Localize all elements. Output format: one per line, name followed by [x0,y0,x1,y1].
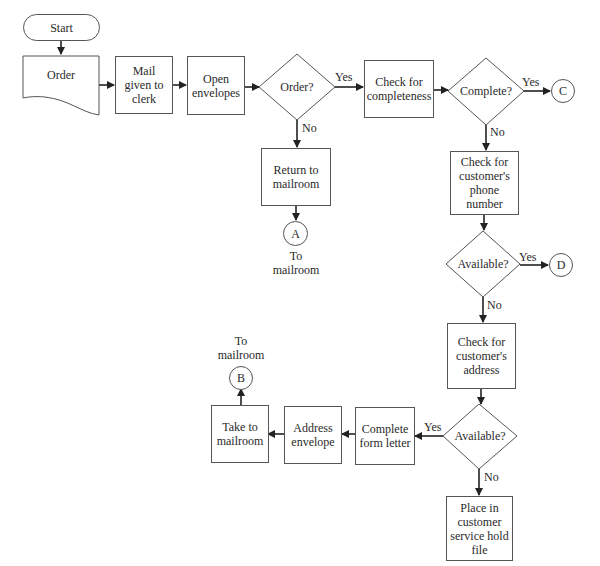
order-decision: Order? [262,77,332,97]
connector-c: C [551,79,575,103]
hold-file-label: Place in customer service hold file [450,501,509,557]
complete-decision-label: Complete? [460,84,512,99]
phone-yes-label: Yes [519,250,536,264]
address-available-label: Available? [454,429,505,444]
connector-a-label: A [291,227,300,241]
address-no-label: No [484,470,499,484]
hold-file-box: Place in customer service hold file [446,496,513,561]
complete-yes-label: Yes [522,75,539,89]
address-envelope-label: Address envelope [287,421,339,449]
order-no-label: No [302,121,317,135]
check-completeness-label: Check for completeness [365,75,433,103]
connector-d-label: D [557,258,566,272]
start-terminal: Start [23,14,100,41]
open-envelopes-box: Open envelopes [187,56,245,115]
check-address-label: Check for customer's address [451,335,512,377]
check-address-box: Check for customer's address [447,323,516,389]
complete-decision: Complete? [450,81,522,101]
address-envelope-box: Address envelope [284,406,342,464]
order-document-label: Order [47,68,75,82]
phone-no-label: No [487,298,502,312]
check-phone-box: Check for customer's phone number [450,151,519,215]
take-mailroom-box: Take to mailroom [211,405,269,463]
phone-available-label: Available? [457,257,508,272]
mail-given-label: Mail given to clerk [119,64,169,106]
start-label: Start [50,21,73,35]
order-decision-label: Order? [280,80,313,95]
address-available-decision: Available? [444,426,516,446]
order-yes-label: Yes [335,70,352,84]
complete-no-label: No [490,125,505,139]
complete-form-letter-box: Complete form letter [355,407,415,465]
order-document: Order [23,60,99,90]
complete-form-letter-label: Complete form letter [358,422,412,450]
check-phone-label: Check for customer's phone number [454,155,515,211]
phone-available-decision: Available? [448,254,518,274]
mail-given-box: Mail given to clerk [115,56,173,114]
connector-c-label: C [559,84,567,98]
return-mailroom-label: Return to mailroom [262,163,330,191]
take-mailroom-label: Take to mailroom [214,420,266,448]
return-mailroom-box: Return to mailroom [261,148,331,206]
connector-a: A [283,221,308,246]
connector-a-note: To mailroom [266,249,326,277]
open-envelopes-label: Open envelopes [190,72,242,100]
connector-b: B [229,366,253,390]
address-yes-label: Yes [424,420,441,434]
connector-b-label: B [237,371,245,385]
connector-b-note: To mailroom [211,334,271,362]
check-completeness-box: Check for completeness [364,60,434,118]
connector-d: D [549,253,573,277]
